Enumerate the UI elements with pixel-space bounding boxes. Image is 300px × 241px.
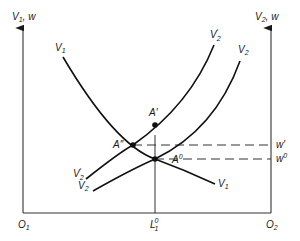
a-prime-label: A′ xyxy=(148,107,159,118)
v2-prime-bottom-label: V2′ xyxy=(73,167,84,181)
a-double-prime-label: A″ xyxy=(112,139,124,150)
v2-prime-top-label: V2′ xyxy=(210,28,221,42)
point-a-zero xyxy=(152,156,158,162)
v2-top-label: V2 xyxy=(238,44,249,56)
origin-o1-label: O1 xyxy=(18,219,30,231)
a-zero-label: A0 xyxy=(171,153,183,165)
l1-zero-label: L10 xyxy=(150,217,159,232)
axes xyxy=(23,28,271,213)
curve-v1 xyxy=(63,57,215,184)
left-axis-label: V1, w xyxy=(12,11,36,23)
labor-market-diagram: V1, w V2, w O1 O2 L10 V1 V1 V2′ V2′ V2 V… xyxy=(0,0,300,241)
w-prime-label: w′ xyxy=(276,139,286,150)
w-zero-label: w0 xyxy=(276,152,287,164)
point-a-prime xyxy=(152,122,158,128)
curve-v2 xyxy=(93,61,240,191)
point-a-double-prime xyxy=(130,142,136,148)
origin-o2-label: O2 xyxy=(266,219,278,231)
v1-bottom-label: V1 xyxy=(218,178,229,190)
right-axis-label: V2, w xyxy=(255,11,279,23)
v1-top-label: V1 xyxy=(55,42,66,54)
v2-bottom-label: V2 xyxy=(78,180,89,192)
